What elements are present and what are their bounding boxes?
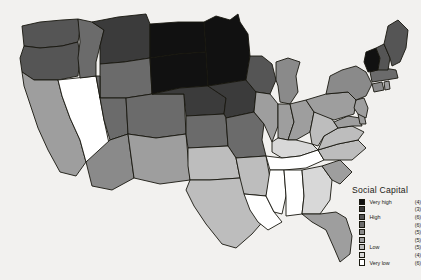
state-colorado [126, 94, 186, 138]
legend-swatch-4 [359, 221, 365, 227]
legend-row[interactable]: (4) [359, 251, 421, 259]
legend-count: (6) [415, 260, 421, 266]
legend-row[interactable]: (3) [359, 206, 421, 214]
legend-rows: Very high (4) (3) High (6) (6) [352, 198, 421, 266]
legend-count: (6) [415, 214, 421, 220]
legend-label: High [369, 214, 397, 220]
legend-row[interactable]: Very low (6) [359, 259, 421, 267]
legend-row[interactable]: (5) [359, 228, 421, 236]
legend-label: Very low [369, 260, 397, 266]
state-minnesota [204, 14, 250, 86]
state-connecticut [372, 82, 384, 92]
state-kansas [186, 114, 228, 148]
legend-count: (5) [415, 244, 421, 250]
legend-row[interactable]: Low (5) [359, 244, 421, 252]
legend-swatch-2 [359, 206, 365, 212]
legend-swatch-very-high [359, 199, 365, 205]
legend-row[interactable]: (5) [359, 236, 421, 244]
legend-swatch-high [359, 214, 365, 220]
state-oregon [20, 42, 80, 80]
legend-count: (4) [415, 252, 421, 258]
legend-count: (5) [415, 237, 421, 243]
state-wyoming [100, 58, 152, 98]
state-rhode-island [384, 81, 390, 90]
legend-row[interactable]: Very high (4) [359, 198, 421, 206]
legend-count: (5) [415, 229, 421, 235]
state-florida [302, 212, 352, 262]
legend-swatch-6 [359, 237, 365, 243]
state-new-mexico [128, 134, 190, 184]
state-alabama [284, 170, 304, 216]
legend-swatch-5 [359, 229, 365, 235]
state-new-jersey [354, 98, 368, 118]
legend-swatch-low [359, 244, 365, 250]
legend-label: Low [369, 244, 397, 250]
legend-title: Social Capital [352, 185, 421, 195]
legend-swatch-very-low [359, 259, 365, 265]
legend-count: (4) [415, 199, 421, 205]
map-legend: Social Capital Very high (4) (3) High (6… [352, 185, 421, 266]
legend-count: (6) [415, 222, 421, 228]
legend-row[interactable]: (6) [359, 221, 421, 229]
legend-label: Very high [369, 199, 397, 205]
legend-swatch-8 [359, 252, 365, 258]
legend-count: (3) [415, 206, 421, 212]
legend-row[interactable]: High (6) [359, 213, 421, 221]
state-michigan [276, 58, 300, 104]
choropleth-map-figure: Social Capital Very high (4) (3) High (6… [0, 0, 421, 280]
